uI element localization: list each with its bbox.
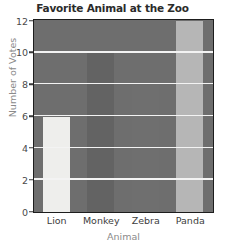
y-tick-label: 12 <box>16 15 28 26</box>
plot-inner <box>34 20 213 212</box>
bar-chart: Favorite Animal at the Zoo 024681012 Num… <box>0 0 225 251</box>
gridline <box>34 51 213 53</box>
gridline <box>34 115 213 117</box>
x-tick-label-monkey: Monkey <box>79 215 124 226</box>
y-tick-label: 2 <box>22 174 28 185</box>
y-tick-label: 10 <box>16 47 28 58</box>
y-tick-label: 8 <box>22 79 28 90</box>
bar-zebra <box>132 85 159 212</box>
gridline <box>34 147 213 149</box>
plot-area <box>33 19 214 213</box>
x-tick-label-lion: Lion <box>35 215 80 226</box>
bar-panda <box>176 21 203 212</box>
x-axis: LionMonkeyZebraPanda <box>33 215 214 229</box>
gridline <box>34 178 213 180</box>
y-axis-title: Number of Votes <box>7 18 18 138</box>
bar-lion <box>43 117 70 213</box>
x-tick-label-zebra: Zebra <box>124 215 169 226</box>
chart-title: Favorite Animal at the Zoo <box>0 2 225 14</box>
x-tick-label-panda: Panda <box>168 215 213 226</box>
bar-monkey <box>87 53 114 212</box>
x-axis-title: Animal <box>33 231 214 242</box>
gridline <box>34 83 213 85</box>
y-tick-label: 4 <box>22 142 28 153</box>
y-tick-label: 0 <box>22 206 28 217</box>
y-tick-label: 6 <box>22 111 28 122</box>
